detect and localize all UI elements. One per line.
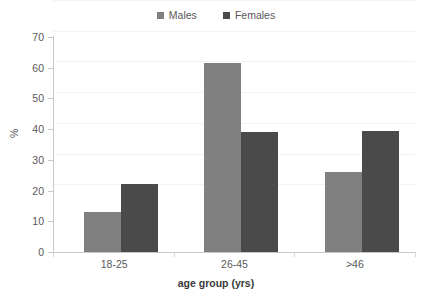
legend-label-males: Males (169, 10, 197, 21)
bar-chart: Males Females 010203040506070 % 18-2526-… (0, 0, 432, 301)
legend-swatch-males-icon (157, 12, 164, 19)
bar-females->46 (362, 131, 399, 252)
bar-males-26-45 (204, 63, 241, 252)
x-tick-mark (53, 252, 54, 257)
x-tick-label: 26-45 (174, 259, 294, 270)
y-axis-title: % (8, 129, 20, 138)
y-tick-label: 0 (0, 247, 44, 258)
bar-series-container (54, 37, 415, 252)
legend-swatch-females-icon (223, 12, 230, 19)
x-axis-line (53, 252, 415, 253)
x-axis-labels: 18-2526-45>46 (54, 259, 415, 270)
legend-label-females: Females (235, 10, 275, 21)
bar-males-18-25 (84, 212, 121, 252)
y-tick-label: 50 (0, 93, 44, 104)
y-tick-label: 60 (0, 63, 44, 74)
bar-males->46 (325, 172, 362, 252)
x-tick-label: >46 (295, 259, 415, 270)
y-tick-label: 10 (0, 216, 44, 227)
bar-group (295, 37, 415, 252)
x-tick-label: 18-25 (54, 259, 174, 270)
legend-item-males: Males (157, 10, 197, 21)
x-tick-mark (294, 252, 295, 257)
gridline (53, 31, 415, 32)
bar-females-26-45 (241, 132, 278, 252)
chart-legend: Males Females (0, 10, 432, 21)
legend-item-females: Females (223, 10, 275, 21)
x-axis-title: age group (yrs) (0, 278, 432, 289)
y-tick-label: 70 (0, 32, 44, 43)
bar-group (174, 37, 294, 252)
x-tick-mark (174, 252, 175, 257)
y-tick-label: 30 (0, 155, 44, 166)
bar-females-18-25 (121, 184, 158, 252)
gridline (53, 0, 415, 1)
y-tick-label: 40 (0, 124, 44, 135)
bar-group (54, 37, 174, 252)
y-tick-label: 20 (0, 186, 44, 197)
x-tick-mark (415, 252, 416, 257)
